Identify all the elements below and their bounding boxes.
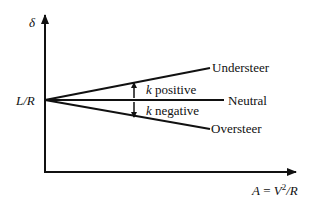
- oversteer-label: Oversteer: [211, 121, 262, 136]
- understeer-label: Understeer: [212, 60, 270, 75]
- x-axis-label: A = V2/R: [251, 182, 298, 198]
- steering-diagram: δ L/R Understeer Neutral Oversteer k pos…: [0, 0, 317, 209]
- intercept-label: L/R: [15, 93, 35, 108]
- k-positive-label: k positive: [146, 82, 196, 97]
- neutral-label: Neutral: [228, 93, 267, 108]
- y-axis-label: δ: [29, 15, 36, 30]
- k-negative-label: k negative: [146, 103, 199, 118]
